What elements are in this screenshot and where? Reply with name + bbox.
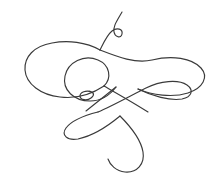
artboard	[0, 0, 218, 188]
flourish-illustration	[0, 0, 218, 188]
